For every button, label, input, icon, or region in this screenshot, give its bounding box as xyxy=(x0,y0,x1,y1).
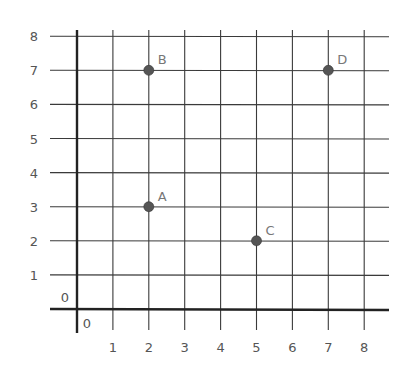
grid-line-horizontal xyxy=(50,70,389,71)
data-point-d xyxy=(323,65,333,75)
coordinate-grid-chart: 123456781234567800 ABCD xyxy=(0,0,411,367)
x-tick-label: 2 xyxy=(145,340,153,355)
x-tick-label: 1 xyxy=(109,340,117,355)
data-point-b xyxy=(144,65,154,75)
data-point-a xyxy=(144,202,154,212)
y-tick-label: 5 xyxy=(30,132,38,147)
y-tick-label: 8 xyxy=(30,29,38,44)
y-tick-label: 6 xyxy=(30,97,38,112)
data-point-c xyxy=(252,236,262,246)
y-tick-label: 1 xyxy=(30,268,38,283)
x-tick-label: 5 xyxy=(252,340,260,355)
grid-line-horizontal xyxy=(50,241,389,242)
axes xyxy=(50,30,389,333)
grid-line-horizontal xyxy=(50,275,389,276)
x-tick-label: 4 xyxy=(216,340,224,355)
grid-line-horizontal xyxy=(50,207,389,208)
x-tick-label: 3 xyxy=(181,340,189,355)
point-label-b: B xyxy=(158,52,167,67)
y-tick-label: 3 xyxy=(30,200,38,215)
grid-lines xyxy=(50,30,389,330)
grid-line-horizontal xyxy=(50,104,389,105)
grid-line-horizontal xyxy=(50,173,389,174)
x-axis xyxy=(50,309,389,310)
point-label-d: D xyxy=(337,52,347,67)
tick-labels: 123456781234567800 xyxy=(30,29,368,355)
y-tick-label: 7 xyxy=(30,63,38,78)
origin-label-x: 0 xyxy=(83,316,91,331)
origin-label-y: 0 xyxy=(61,290,69,305)
x-tick-label: 7 xyxy=(324,340,332,355)
y-tick-label: 4 xyxy=(30,166,38,181)
point-label-c: C xyxy=(266,223,275,238)
y-tick-label: 2 xyxy=(30,234,38,249)
x-tick-label: 8 xyxy=(360,340,368,355)
data-points: ABCD xyxy=(144,52,348,246)
x-tick-label: 6 xyxy=(288,340,296,355)
grid-line-horizontal xyxy=(50,36,389,37)
grid-line-horizontal xyxy=(50,139,389,140)
point-label-a: A xyxy=(158,189,167,204)
